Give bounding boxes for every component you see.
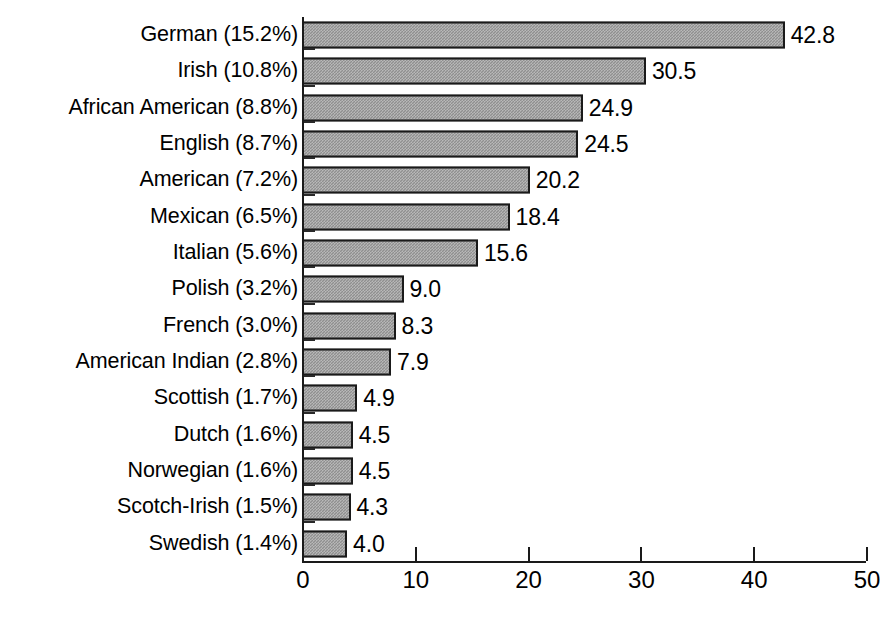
x-axis-tick-label: 30 (628, 568, 655, 592)
category-label: Irish (10.8%) (177, 61, 298, 83)
bar-value-label: 4.5 (359, 460, 390, 483)
bar (302, 530, 347, 557)
bar-value-label: 18.4 (516, 205, 560, 228)
bar-value-label: 24.5 (584, 133, 628, 156)
x-axis-tick (415, 547, 417, 561)
bar-row: Swedish (1.4%)4.0 (0, 526, 880, 562)
x-axis-tick (640, 547, 642, 561)
cropped-title-remnant (150, 0, 570, 2)
bar-row: French (3.0%)8.3 (0, 308, 880, 344)
bar-row: Italian (5.6%)15.6 (0, 235, 880, 271)
plot-area: German (15.2%)42.8Irish (10.8%)30.5Afric… (0, 0, 880, 619)
y-axis-gap-tick (304, 230, 315, 232)
y-axis-gap-tick (304, 85, 315, 87)
category-label: Swedish (1.4%) (149, 533, 298, 555)
x-axis-tick (528, 547, 530, 561)
bar-row: Polish (3.2%)9.0 (0, 271, 880, 307)
category-label: African American (8.8%) (68, 97, 298, 119)
y-axis-gap-tick (304, 194, 315, 196)
category-label: Norwegian (1.6%) (128, 460, 298, 482)
bar-value-label: 24.9 (589, 96, 633, 119)
category-label: American Indian (2.8%) (76, 351, 298, 373)
bar (302, 494, 351, 521)
category-label: Mexican (6.5%) (150, 206, 298, 228)
bar-value-label: 15.6 (484, 242, 528, 265)
category-label: German (15.2%) (140, 24, 298, 46)
x-axis-tick-label: 0 (296, 568, 309, 592)
y-axis-gap-tick (304, 121, 315, 123)
bar-chart: German (15.2%)42.8Irish (10.8%)30.5Afric… (0, 0, 880, 619)
category-label: Polish (3.2%) (171, 279, 298, 301)
y-axis-gap-tick (304, 266, 315, 268)
bar-value-label: 8.3 (402, 314, 433, 337)
x-axis-tick-label: 50 (854, 568, 880, 592)
y-axis-gap-tick (304, 448, 315, 450)
bar-value-label: 9.0 (410, 278, 441, 301)
y-axis-line (302, 17, 304, 563)
category-label: Italian (5.6%) (173, 242, 298, 264)
bar-row: Norwegian (1.6%)4.5 (0, 453, 880, 489)
category-label: American (7.2%) (139, 170, 298, 192)
bar (302, 167, 530, 194)
bar-value-label: 4.3 (357, 496, 388, 519)
bar (302, 421, 353, 448)
bar-row: American (7.2%)20.2 (0, 162, 880, 198)
category-label: French (3.0%) (163, 315, 298, 337)
x-axis-line (302, 561, 866, 563)
bar (302, 240, 478, 267)
bar-row: Irish (10.8%)30.5 (0, 53, 880, 89)
y-axis-gap-tick (304, 521, 315, 523)
bar-row: English (8.7%)24.5 (0, 126, 880, 162)
category-label: Scottish (1.7%) (154, 388, 298, 410)
bar-row: Scottish (1.7%)4.9 (0, 380, 880, 416)
y-axis-gap-tick (304, 412, 315, 414)
bar-row: Scotch-Irish (1.5%)4.3 (0, 489, 880, 525)
bar (302, 276, 404, 303)
bar (302, 203, 510, 230)
bar-value-label: 20.2 (536, 169, 580, 192)
bar-value-label: 30.5 (652, 60, 696, 83)
x-axis-tick-label: 40 (741, 568, 768, 592)
bar-value-label: 42.8 (791, 24, 835, 47)
x-axis-tick-label: 10 (402, 568, 429, 592)
y-axis-gap-tick (304, 48, 315, 50)
x-axis-tick (866, 547, 868, 561)
bar (302, 385, 357, 412)
bar (302, 131, 578, 158)
x-axis-tick (302, 547, 304, 561)
category-label: English (8.7%) (160, 133, 298, 155)
bar (302, 349, 391, 376)
bar (302, 458, 353, 485)
bar (302, 312, 396, 339)
bar-row: German (15.2%)42.8 (0, 17, 880, 53)
bar (302, 22, 785, 49)
y-axis-gap-tick (304, 484, 315, 486)
category-label: Dutch (1.6%) (174, 424, 298, 446)
x-axis-tick (753, 547, 755, 561)
bar-row: Mexican (6.5%)18.4 (0, 199, 880, 235)
bar-value-label: 4.9 (363, 387, 394, 410)
bar-row: American Indian (2.8%)7.9 (0, 344, 880, 380)
bar (302, 58, 646, 85)
y-axis-gap-tick (304, 375, 315, 377)
y-axis-gap-tick (304, 157, 315, 159)
category-label: Scotch-Irish (1.5%) (117, 497, 298, 519)
bar-row: African American (8.8%)24.9 (0, 90, 880, 126)
bar-row: Dutch (1.6%)4.5 (0, 417, 880, 453)
bar-value-label: 4.5 (359, 423, 390, 446)
x-axis-tick-label: 20 (515, 568, 542, 592)
bar-value-label: 4.0 (353, 532, 384, 555)
y-axis-gap-tick (304, 339, 315, 341)
y-axis-gap-tick (304, 303, 315, 305)
bar-value-label: 7.9 (397, 351, 428, 374)
bar (302, 94, 583, 121)
